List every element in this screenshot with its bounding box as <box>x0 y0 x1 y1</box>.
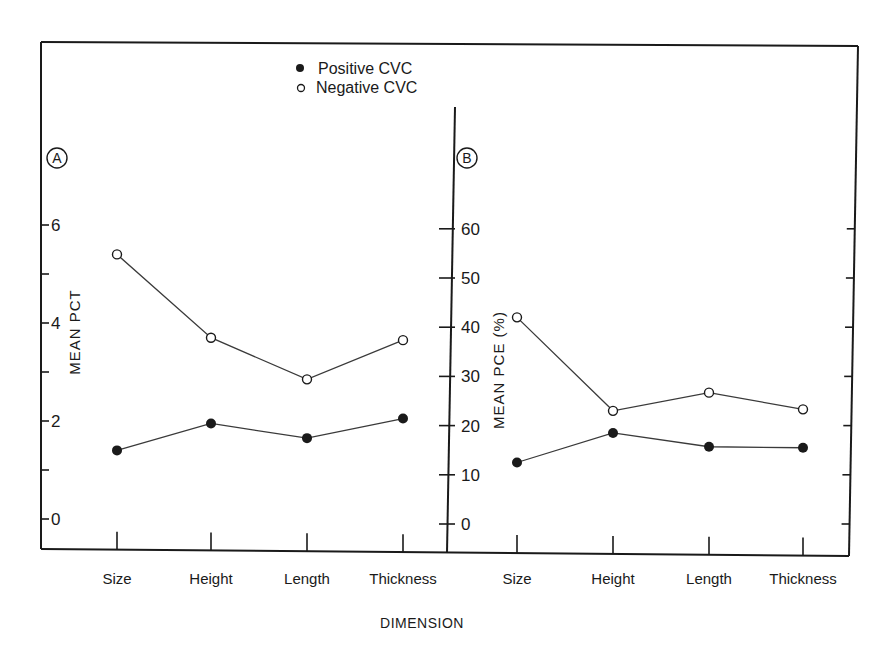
filled-circle-marker-icon <box>608 428 618 438</box>
x-category-label: Height <box>189 570 233 587</box>
y-tick-label: 6 <box>51 216 60 235</box>
y-tick-label: 0 <box>461 515 470 534</box>
open-circle-marker-icon <box>799 405 808 414</box>
y-tick-label: 30 <box>461 367 480 386</box>
filled-circle-marker-icon <box>206 418 216 428</box>
data-series <box>112 250 808 468</box>
y-tick-label: 40 <box>461 318 480 337</box>
open-circle-marker-icon <box>513 313 522 322</box>
panel-a-y-ticks: 0246 <box>41 216 60 529</box>
filled-circle-marker-icon <box>112 445 122 455</box>
y-tick-label: 4 <box>51 314 60 333</box>
chart-canvas: Positive CVC Negative CVC A B MEAN PCT M… <box>0 0 878 662</box>
x-axis <box>41 549 849 556</box>
y-tick-label: 60 <box>461 220 480 239</box>
y-tick-label: 0 <box>51 510 60 529</box>
panel-b-y-axis <box>447 107 455 553</box>
open-circle-marker-icon <box>399 336 408 345</box>
open-circle-marker-icon <box>609 406 618 415</box>
panel-b-badge: B <box>457 148 477 168</box>
y-tick-label: 10 <box>461 466 480 485</box>
x-category-label: Size <box>102 570 131 587</box>
panel-a-badge: A <box>47 148 67 168</box>
open-circle-marker-icon <box>207 333 216 342</box>
x-category-label: Height <box>591 570 635 587</box>
svg-text:A: A <box>52 150 62 166</box>
y-tick-label: 20 <box>461 417 480 436</box>
filled-circle-marker-icon <box>798 443 808 453</box>
open-circle-marker-icon <box>303 375 312 384</box>
panel-b-y-ticks: 0102030405060 <box>439 220 480 534</box>
x-axis-title: DIMENSION <box>380 615 464 631</box>
open-circle-marker-icon <box>113 250 122 259</box>
x-category-label: Length <box>686 570 732 587</box>
x-category-label: Thickness <box>769 570 837 587</box>
legend-open-circle-icon <box>298 85 305 92</box>
y-tick-label: 50 <box>461 269 480 288</box>
filled-circle-marker-icon <box>512 458 522 468</box>
series-line <box>517 433 803 463</box>
series-line <box>117 254 403 379</box>
x-category-label: Size <box>502 570 531 587</box>
legend: Positive CVC Negative CVC <box>296 60 417 96</box>
filled-circle-marker-icon <box>302 433 312 443</box>
series-line <box>517 317 803 410</box>
filled-circle-marker-icon <box>398 414 408 424</box>
plot-frame <box>41 42 858 556</box>
panel-b-y-title: MEAN PCE (%) <box>490 311 507 429</box>
x-category-label: Thickness <box>369 570 437 587</box>
legend-label-positive: Positive CVC <box>318 60 412 77</box>
figure: Positive CVC Negative CVC A B MEAN PCT M… <box>0 0 878 662</box>
legend-filled-circle-icon <box>296 64 304 72</box>
frame-right <box>849 46 858 556</box>
panel-a-y-title: MEAN PCT <box>66 289 83 375</box>
y-tick-label: 2 <box>51 412 60 431</box>
x-axis-category-labels: SizeHeightLengthThicknessSizeHeightLengt… <box>102 570 836 587</box>
svg-text:B: B <box>462 150 471 166</box>
series-line <box>117 419 403 451</box>
filled-circle-marker-icon <box>704 442 714 452</box>
x-category-label: Length <box>284 570 330 587</box>
frame-top <box>41 42 858 46</box>
legend-label-negative: Negative CVC <box>316 79 417 96</box>
open-circle-marker-icon <box>705 388 714 397</box>
